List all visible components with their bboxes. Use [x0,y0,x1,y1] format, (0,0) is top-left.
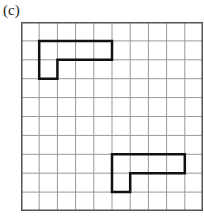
figure-label: (c) [3,2,20,19]
grid-diagram [21,22,204,213]
